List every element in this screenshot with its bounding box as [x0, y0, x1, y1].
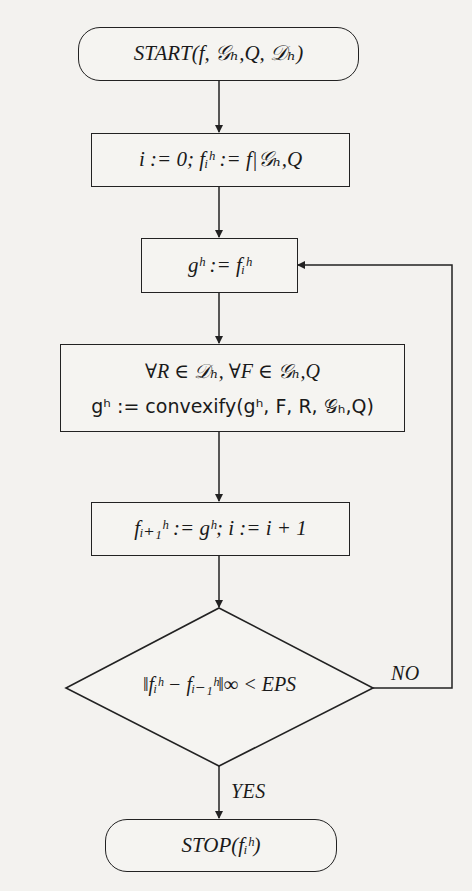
start-node-label: START(f, 𝒢ₕ,Q, 𝒟ₕ) [134, 41, 303, 66]
convexify-node-quantifier: ∀R ∈ 𝒟ₕ, ∀F ∈ 𝒢ₕ,Q [145, 359, 320, 383]
flowchart: START(f, 𝒢ₕ,Q, 𝒟ₕ) i := 0; fᵢʰ := f|𝒢ₕ,Q… [0, 0, 472, 891]
assign-g-node-label: gʰ := fᵢʰ [188, 253, 251, 278]
edge-label-yes: YES [231, 780, 266, 803]
stop-node: STOP(fᵢʰ) [105, 819, 337, 872]
decision-label: ‖fᵢʰ − fᵢ₋₁ʰ‖∞ < EPS [66, 672, 373, 696]
edge-label-no: NO [391, 662, 420, 685]
edge-check-no-loop [298, 265, 452, 688]
assign-g-node: gʰ := fᵢʰ [141, 238, 298, 293]
convexify-node-assignment: gʰ := convexify(gʰ, F, R, 𝒢ₕ,Q) [91, 395, 374, 418]
stop-node-label: STOP(fᵢʰ) [182, 833, 261, 858]
init-node: i := 0; fᵢʰ := f|𝒢ₕ,Q [91, 133, 350, 187]
start-node: START(f, 𝒢ₕ,Q, 𝒟ₕ) [78, 27, 359, 81]
init-node-label: i := 0; fᵢʰ := f|𝒢ₕ,Q [139, 147, 302, 172]
update-node-label: fᵢ₊₁ʰ := gʰ; i := i + 1 [134, 516, 306, 541]
convexify-node: ∀R ∈ 𝒟ₕ, ∀F ∈ 𝒢ₕ,Q gʰ := convexify(gʰ, F… [60, 344, 405, 432]
update-node: fᵢ₊₁ʰ := gʰ; i := i + 1 [91, 502, 350, 556]
